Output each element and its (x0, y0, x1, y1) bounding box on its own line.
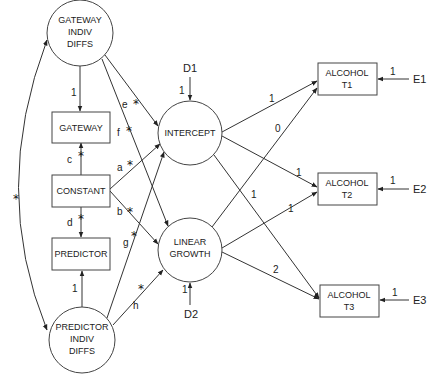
svg-text:c: c (67, 154, 72, 165)
path-f-gateway-indiv-to-growth: * f (102, 59, 168, 226)
path-g-predictor-indiv-to-intercept: * g (107, 152, 164, 318)
node-constant: CONSTANT (52, 175, 110, 207)
svg-text:CONSTANT: CONSTANT (57, 186, 106, 196)
svg-text:f: f (117, 127, 120, 138)
svg-text:E3: E3 (413, 294, 426, 306)
svg-text:T3: T3 (344, 302, 355, 312)
svg-text:ALCOHOL: ALCOHOL (325, 68, 368, 78)
path-e3-to-t3: E3 1 (380, 287, 426, 306)
node-linear-growth: LINEAR GROWTH (158, 218, 222, 282)
node-predictor: PREDICTOR (52, 238, 110, 270)
svg-text:1: 1 (71, 87, 77, 98)
svg-text:GATEWAY: GATEWAY (58, 15, 101, 25)
svg-text:a: a (117, 162, 123, 173)
svg-text:E1: E1 (413, 73, 426, 85)
path-intercept-to-t3: 1 (214, 155, 319, 298)
svg-text:D1: D1 (183, 62, 197, 74)
svg-text:1: 1 (288, 203, 294, 214)
svg-text:1: 1 (251, 189, 257, 200)
node-intercept: INTERCEPT (158, 101, 222, 165)
svg-text:1: 1 (269, 93, 275, 104)
svg-text:1: 1 (390, 66, 396, 77)
svg-text:d: d (67, 217, 73, 228)
svg-text:*: * (127, 158, 133, 172)
svg-text:1: 1 (392, 287, 398, 298)
svg-text:LINEAR: LINEAR (174, 237, 207, 247)
svg-text:1: 1 (390, 175, 396, 186)
svg-text:g: g (123, 237, 129, 248)
svg-text:T2: T2 (342, 190, 353, 200)
svg-text:INDIV: INDIV (70, 334, 94, 344)
node-alcohol-t3: ALCOHOL T3 (320, 285, 379, 317)
svg-text:DIFFS: DIFFS (69, 346, 95, 356)
svg-text:2: 2 (273, 264, 279, 275)
path-e1-to-t1: E1 1 (378, 66, 426, 85)
svg-text:INDIV: INDIV (68, 27, 92, 37)
svg-text:*: * (78, 149, 84, 163)
path-e2-to-t2: E2 1 (378, 175, 426, 195)
node-alcohol-t1: ALCOHOL T1 (318, 63, 377, 95)
path-a-constant-to-intercept: * a (110, 144, 160, 189)
svg-text:PREDICTOR: PREDICTOR (55, 249, 108, 259)
svg-text:E2: E2 (413, 183, 426, 195)
svg-text:b: b (117, 206, 123, 217)
svg-text:D2: D2 (184, 308, 198, 320)
node-gateway: GATEWAY (52, 112, 110, 143)
svg-text:PREDICTOR: PREDICTOR (56, 322, 109, 332)
node-gateway-indiv-diffs: GATEWAY INDIV DIFFS (47, 0, 113, 66)
svg-text:*: * (127, 205, 133, 219)
svg-text:*: * (138, 282, 144, 296)
svg-text:GATEWAY: GATEWAY (59, 123, 102, 133)
svg-text:INTERCEPT: INTERCEPT (164, 128, 216, 138)
svg-text:1: 1 (296, 167, 302, 178)
path-growth-to-t2: 1 (222, 192, 317, 248)
svg-text:DIFFS: DIFFS (67, 39, 93, 49)
svg-text:ALCOHOL: ALCOHOL (325, 178, 368, 188)
path-d-constant-to-predictor: * d (67, 207, 84, 237)
node-predictor-indiv-diffs: PREDICTOR INDIV DIFFS (49, 307, 115, 373)
svg-text:T1: T1 (342, 80, 353, 90)
svg-text:*: * (78, 212, 84, 226)
svg-text:0: 0 (275, 123, 281, 134)
svg-text:ALCOHOL: ALCOHOL (327, 290, 370, 300)
path-d2-to-growth: D2 1 (182, 283, 198, 320)
svg-text:*: * (133, 97, 139, 111)
path-gateway-indiv-to-gateway: 1 (71, 66, 80, 111)
free-parameter-star: * (13, 192, 19, 206)
svg-text:e: e (122, 99, 128, 110)
path-diagram: * 1 * c * d 1 * e * f * a * (0, 0, 439, 381)
path-growth-to-t3: 2 (222, 252, 319, 299)
path-e-gateway-indiv-to-intercept: * e (105, 55, 158, 126)
path-intercept-to-t2: 1 (222, 136, 317, 187)
svg-text:*: * (131, 229, 137, 243)
svg-text:GROWTH: GROWTH (170, 249, 211, 259)
path-c-constant-to-gateway: * c (67, 143, 84, 175)
svg-text:*: * (126, 124, 132, 138)
node-alcohol-t2: ALCOHOL T2 (318, 173, 377, 205)
path-predictor-indiv-to-predictor: 1 (72, 271, 82, 307)
svg-text:1: 1 (179, 85, 185, 96)
svg-text:1: 1 (72, 283, 78, 294)
covariance-path-indiv-diffs: * (13, 40, 47, 330)
svg-text:1: 1 (182, 284, 188, 295)
svg-text:h: h (133, 300, 139, 311)
path-d1-to-intercept: D1 1 (179, 62, 197, 100)
